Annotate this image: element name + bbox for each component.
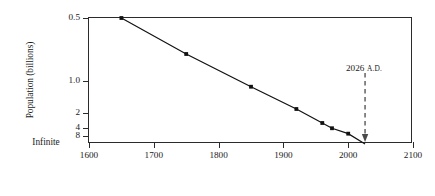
x-tick-label-4: 2000 <box>339 151 357 160</box>
x-tick-5 <box>413 142 414 148</box>
population-doomsday-chart: Population (billions) Infinite 0.5 1.0 2… <box>0 0 435 196</box>
x-tick-label-2: 1800 <box>209 151 227 160</box>
annotation-year-value: 2026 <box>346 63 364 73</box>
x-tick-label-1: 1700 <box>145 151 163 160</box>
data-point-2 <box>249 85 253 89</box>
y-tick-label-4: 8 <box>75 132 80 141</box>
x-tick-label-0: 1600 <box>80 151 98 160</box>
data-point-1 <box>184 52 188 56</box>
data-point-3 <box>294 107 298 111</box>
plot-frame: 0.5 1.0 2 4 8 1600 1700 1800 1900 2000 2… <box>88 17 412 143</box>
data-point-4 <box>320 121 324 125</box>
y-tick-label-1: 1.0 <box>69 76 80 85</box>
plot-canvas <box>89 18 413 144</box>
x-tick-label-5: 2100 <box>404 151 422 160</box>
annotation-era-suffix: A.D. <box>367 64 382 73</box>
annotation-year-label: 2026A.D. <box>346 64 382 73</box>
annotation-dashed-arrow <box>362 73 368 142</box>
data-point-0 <box>120 16 124 20</box>
y-axis-title: Population (billions) <box>26 42 35 119</box>
y-tick-label-2: 2 <box>75 108 80 117</box>
x-tick-label-3: 1900 <box>274 151 292 160</box>
data-series-line <box>121 18 365 144</box>
data-point-6 <box>346 132 350 136</box>
y-axis-infinite-label: Infinite <box>32 138 59 147</box>
data-series-markers <box>120 16 351 135</box>
data-point-5 <box>330 126 334 130</box>
y-tick-label-0: 0.5 <box>69 13 80 22</box>
